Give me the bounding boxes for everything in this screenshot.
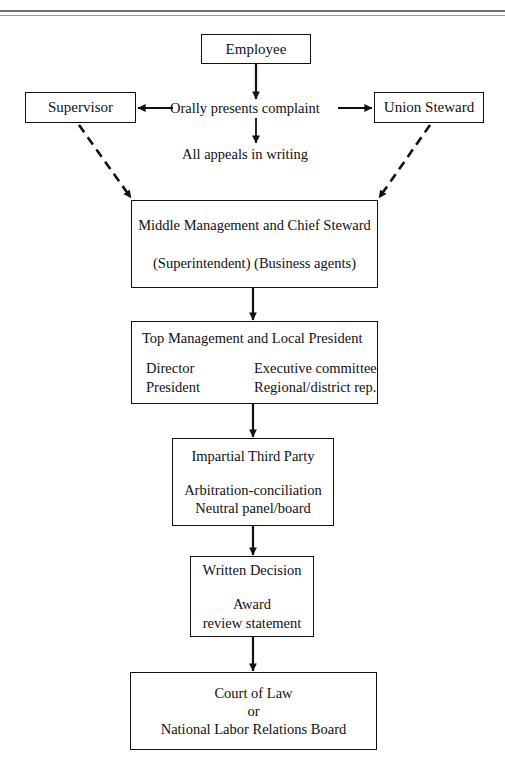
label-all-appeals-in-writing: All appeals in writing bbox=[182, 146, 308, 163]
label-orally-presents-complaint: Orally presents complaint bbox=[170, 100, 320, 117]
node-middle-management-line2: (Superintendent) (Business agents) bbox=[153, 254, 356, 272]
node-union-steward-label: Union Steward bbox=[384, 98, 474, 117]
page-header-rule-top bbox=[0, 10, 505, 12]
node-top-management[interactable]: Top Management and Local President Direc… bbox=[131, 321, 378, 404]
node-middle-management-line1: Middle Management and Chief Steward bbox=[138, 216, 371, 234]
grievance-procedure-flowchart: Employee Supervisor Union Steward Middle… bbox=[0, 0, 505, 778]
node-court-of-law-line1: Court of Law bbox=[214, 684, 292, 702]
node-impartial-third-party[interactable]: Impartial Third Party Arbitration-concil… bbox=[172, 438, 334, 526]
node-top-management-col-left: Director President bbox=[146, 359, 254, 395]
node-written-decision[interactable]: Written Decision Award review statement bbox=[190, 556, 314, 637]
node-supervisor-label: Supervisor bbox=[48, 98, 113, 117]
node-court-of-law[interactable]: Court of Law or National Labor Relations… bbox=[130, 672, 377, 750]
page-header-rule-bottom bbox=[0, 15, 505, 16]
node-union-steward[interactable]: Union Steward bbox=[374, 92, 484, 123]
node-top-management-columns: Director President Executive committee R… bbox=[146, 359, 377, 395]
node-top-management-exec-committee: Executive committee bbox=[254, 359, 377, 377]
node-top-management-regional-rep: Regional/district rep. bbox=[254, 378, 377, 396]
node-top-management-title: Top Management and Local President bbox=[142, 329, 362, 347]
node-top-management-director: Director bbox=[146, 359, 254, 377]
connector-steward-to-middle bbox=[379, 125, 430, 198]
node-middle-management[interactable]: Middle Management and Chief Steward (Sup… bbox=[131, 200, 378, 288]
node-employee-label: Employee bbox=[226, 40, 287, 59]
node-top-management-president: President bbox=[146, 378, 254, 396]
node-court-of-law-line3: National Labor Relations Board bbox=[161, 720, 347, 738]
node-top-management-col-right: Executive committee Regional/district re… bbox=[254, 359, 377, 395]
node-impartial-third-party-title: Impartial Third Party bbox=[192, 447, 315, 465]
node-impartial-third-party-line3: Neutral panel/board bbox=[195, 499, 311, 517]
node-written-decision-title: Written Decision bbox=[203, 561, 302, 579]
node-impartial-third-party-line2: Arbitration-conciliation bbox=[184, 481, 322, 499]
node-employee[interactable]: Employee bbox=[201, 34, 311, 64]
node-court-of-law-line2: or bbox=[247, 702, 259, 720]
node-supervisor[interactable]: Supervisor bbox=[25, 92, 136, 123]
connector-supervisor-to-middle bbox=[79, 125, 131, 198]
node-written-decision-line2: Award bbox=[233, 595, 271, 613]
node-written-decision-line3: review statement bbox=[203, 614, 302, 632]
